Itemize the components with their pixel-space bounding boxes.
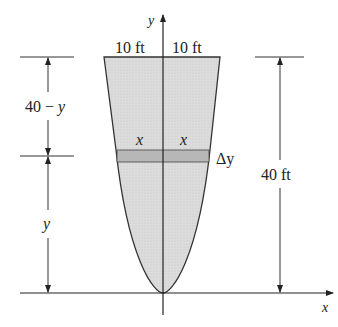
left-lower-dimension-label: y bbox=[41, 215, 51, 233]
strip-left-x-label: x bbox=[135, 131, 143, 148]
delta-y-label: Δy bbox=[216, 150, 234, 168]
right-dimension-label: 40 ft bbox=[261, 166, 291, 183]
tank-diagram: y x 10 ft 10 ft x x Δy 40 − y y 40 ft bbox=[0, 0, 338, 327]
top-left-width-label: 10 ft bbox=[115, 39, 145, 56]
tank-region bbox=[104, 57, 220, 293]
y-var: y bbox=[56, 98, 66, 116]
x-axis-label: x bbox=[321, 300, 329, 315]
forty-minus: 40 − bbox=[25, 98, 58, 115]
left-upper-dimension-label: 40 − y bbox=[25, 98, 66, 116]
top-right-width-label: 10 ft bbox=[172, 39, 202, 56]
y-axis-label: y bbox=[146, 13, 155, 28]
strip-right-x-label: x bbox=[179, 131, 187, 148]
